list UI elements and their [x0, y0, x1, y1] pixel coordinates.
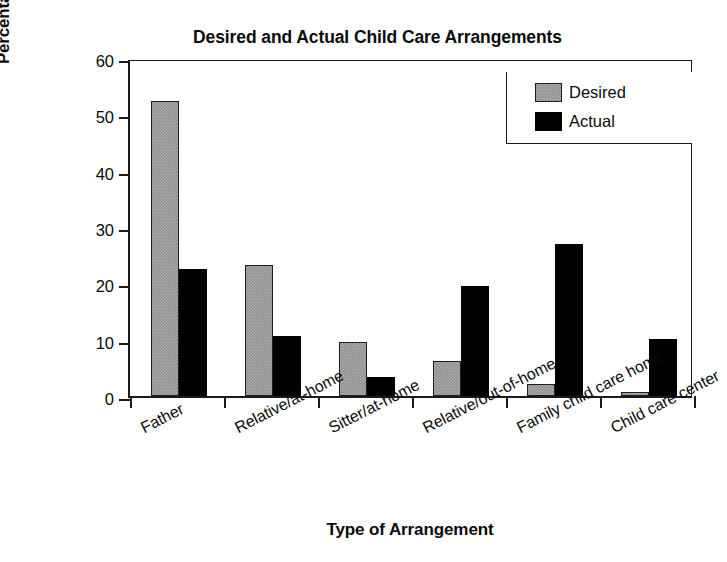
chart-title: Desired and Actual Child Care Arrangemen…	[0, 27, 727, 48]
bar-desired	[433, 361, 461, 396]
x-axis-title: Type of Arrangement	[128, 520, 692, 540]
bar-desired	[339, 342, 367, 396]
x-axis-tick	[130, 396, 132, 408]
y-axis-tick-label: 20	[68, 278, 114, 295]
y-axis-tick-label: 30	[68, 222, 114, 239]
x-axis-tick	[318, 396, 320, 408]
y-axis-tick	[119, 230, 130, 232]
y-axis-tick-label: 50	[68, 109, 114, 126]
legend-item-desired: Desired	[535, 78, 692, 107]
legend-item-actual: Actual	[535, 107, 692, 136]
y-axis-tick	[119, 286, 130, 288]
bar-desired	[621, 392, 649, 397]
legend-label-desired: Desired	[569, 83, 626, 102]
y-axis-tick	[119, 343, 130, 345]
x-axis-category-label: Father	[138, 400, 187, 437]
y-axis-tick-label: 40	[68, 166, 114, 183]
y-axis-tick-label: 0	[68, 391, 114, 408]
y-axis-tick-label: 10	[68, 335, 114, 352]
x-axis-tick	[506, 396, 508, 408]
y-axis-tick-label: 60	[68, 53, 114, 70]
bar-actual	[461, 286, 489, 396]
bar-desired	[151, 101, 179, 396]
y-axis-title: Percentage of families	[0, 0, 14, 96]
y-axis-tick	[119, 399, 130, 401]
x-axis-tick	[600, 396, 602, 408]
legend-swatch-actual-icon	[535, 112, 562, 131]
x-axis-tick	[224, 396, 226, 408]
chart-figure: Desired and Actual Child Care Arrangemen…	[0, 0, 727, 562]
bar-desired	[527, 384, 555, 396]
y-axis-tick	[119, 61, 130, 63]
bar-actual	[179, 269, 207, 396]
y-axis-tick	[119, 174, 130, 176]
x-axis-tick	[412, 396, 414, 408]
bar-actual	[555, 244, 583, 396]
legend-label-actual: Actual	[569, 112, 615, 131]
y-axis-tick	[119, 117, 130, 119]
bar-desired	[245, 265, 273, 396]
legend-swatch-desired-icon	[535, 83, 562, 102]
chart-legend: Desired Actual	[506, 72, 692, 144]
x-axis-tick	[694, 396, 696, 408]
